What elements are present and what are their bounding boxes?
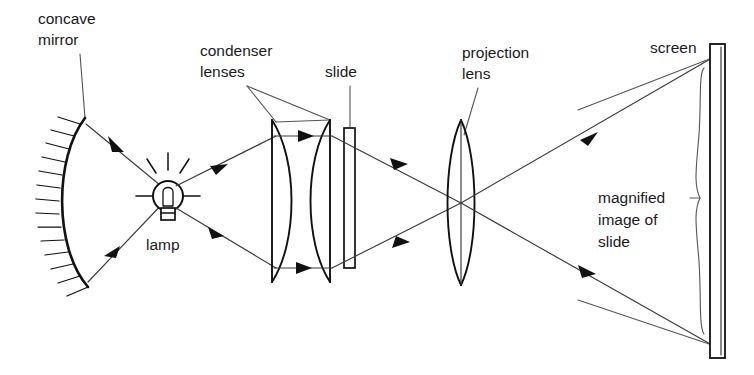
magnified-image-brace-path (696, 68, 704, 334)
magnified-image-label-line3: slide (598, 233, 630, 250)
ray-mirror-upper (86, 124, 166, 190)
ray-projected-lower-arrowhead (578, 265, 596, 278)
ray-parallel-upper-arrowhead (298, 130, 314, 142)
diagram-canvas: concave mirror condenser lenses slide pr… (0, 0, 754, 375)
projection-lens-label-line2: lens (462, 65, 491, 82)
projection-lens-label-line1: projection (462, 44, 529, 61)
lamp (136, 153, 200, 220)
ray-group-lamp-to-condenser (176, 136, 276, 268)
condenser-lenses-label-line2: lenses (200, 63, 245, 80)
concave-mirror-surface (62, 118, 88, 287)
label-slide: slide (325, 63, 357, 128)
ray-parallel-lower-arrowhead (296, 262, 312, 274)
ray-converging-upper-arrowhead (390, 158, 408, 170)
concave-mirror-leader (80, 54, 85, 118)
lamp-base (161, 208, 175, 220)
ray-projected-upper (461, 58, 712, 203)
concave-mirror (36, 117, 88, 296)
label-magnified-image: magnified image of slide (598, 189, 700, 250)
slide-label: slide (325, 63, 357, 80)
ray-group-condenser-parallel (274, 130, 332, 274)
slide (344, 128, 355, 268)
condenser-lens-2-convex-face (311, 120, 331, 282)
projection-lens-right-face (461, 120, 475, 285)
label-condenser-lenses: condenser lenses (200, 42, 330, 122)
condenser-leader-2 (247, 86, 330, 120)
screen-label: screen (650, 39, 697, 56)
optics-diagram: concave mirror condenser lenses slide pr… (0, 0, 754, 375)
ray-projected-upper-arrowhead (580, 132, 598, 146)
magnified-image-label-line1: magnified (598, 189, 665, 206)
ray-lamp-lower-arrowhead (208, 227, 224, 239)
label-screen: screen (650, 39, 697, 56)
screen-panel (710, 44, 725, 358)
concave-mirror-label-line1: concave (38, 10, 96, 27)
slide-body (344, 128, 355, 268)
condenser-leader-bridge (276, 120, 330, 122)
label-concave-mirror: concave mirror (38, 10, 96, 118)
ray-lamp-upper (176, 136, 276, 186)
condenser-lens-1 (272, 120, 292, 282)
ray-lamp-lower (176, 208, 276, 268)
magnified-image-brace (696, 68, 704, 334)
ray-group-projected (461, 58, 712, 345)
magnified-image-label-line2: image of (598, 211, 658, 228)
screen (710, 44, 725, 358)
condenser-lens-1-convex-face (272, 120, 292, 282)
image-cone-upper-edge (578, 58, 712, 110)
concave-mirror-label-line2: mirror (38, 31, 78, 48)
ray-lamp-upper-arrowhead (210, 164, 228, 175)
lamp-label: lamp (146, 236, 180, 253)
ray-mirror-upper-arrowhead (108, 136, 124, 152)
projection-lens-leader (464, 88, 478, 135)
condenser-lens-2 (311, 120, 331, 282)
label-projection-lens: projection lens (462, 44, 529, 135)
ray-converging-lower-arrowhead (392, 236, 410, 248)
label-lamp: lamp (146, 236, 180, 253)
ray-mirror-lower-arrowhead (104, 246, 120, 258)
condenser-lenses-label-line1: condenser (200, 42, 272, 59)
